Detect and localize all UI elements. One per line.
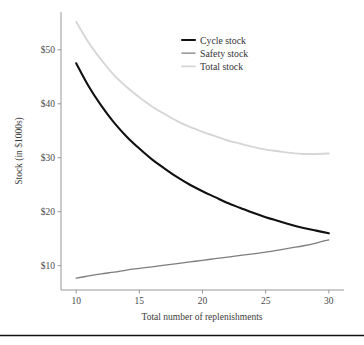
y-tick-label: $30 <box>41 153 56 163</box>
x-axis-title: Total number of replenishments <box>142 312 263 322</box>
x-tick-label: 15 <box>135 296 145 306</box>
y-axis-title: Stock (in $1000s) <box>14 117 25 185</box>
y-tick-label: $10 <box>41 261 56 271</box>
x-tick-label: 25 <box>261 296 271 306</box>
legend-label-safety-stock: Safety stock <box>200 48 248 59</box>
y-tick-label: $40 <box>41 99 56 109</box>
x-tick-label: 10 <box>71 296 81 306</box>
chart-legend: Cycle stockSafety stockTotal stock <box>182 35 248 72</box>
chart-figure: $10$20$30$40$50 1015202530 Cycle stockSa… <box>0 0 364 345</box>
y-tick-label: $20 <box>41 207 56 217</box>
x-tick-label: 30 <box>324 296 334 306</box>
stock-vs-replenishments-line-chart: $10$20$30$40$50 1015202530 Cycle stockSa… <box>0 0 364 345</box>
legend-label-cycle-stock: Cycle stock <box>200 35 246 46</box>
x-tick-label: 20 <box>198 296 208 306</box>
legend-label-total-stock: Total stock <box>200 61 243 72</box>
y-tick-label: $50 <box>41 45 56 55</box>
